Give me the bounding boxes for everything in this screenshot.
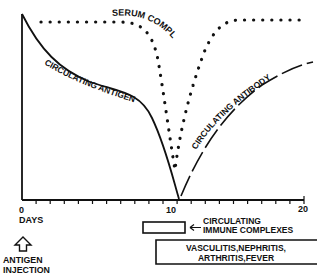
serum-complement-label: SERUM COMPLEMENT [0,0,179,40]
antigen-injection-label-line2: INJECTION [3,265,50,275]
serum-sickness-diagram: SERUM COMPLEMENT CIRCULATING ANTIGEN CIR… [0,0,317,279]
serum-complement-curve [41,20,306,170]
up-arrow-icon [15,237,31,251]
circulating-antibody-curve [181,62,313,196]
symptoms-label-line2: ARTHRITIS,FEVER [198,253,274,263]
left-arrow-icon [190,225,201,231]
x-axis-label: DAYS [19,215,43,225]
immune-complexes-box [143,222,185,233]
symptoms-label-line1: VASCULITIS,NEPHRITIS, [186,243,286,253]
tick-label-0: 0 [19,205,24,215]
circulating-antigen-curve [22,14,179,199]
circulating-antigen-label: CIRCULATING ANTIGEN [43,57,137,104]
immune-complexes-label-line2: IMMUNE COMPLEXES [203,225,294,235]
tick-label-20: 20 [298,204,308,214]
tick-label-10: 10 [166,205,176,215]
circulating-antibody-label: CIRCULATING ANTIBODY [189,72,272,151]
antigen-injection-label-line1: ANTIGEN [3,255,43,265]
